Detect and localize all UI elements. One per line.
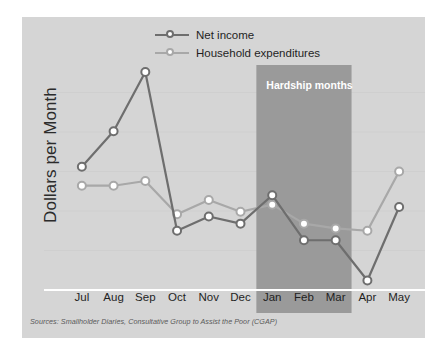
legend-item-net-income[interactable]: Net income xyxy=(155,27,385,43)
x-tick-aug: Aug xyxy=(98,291,130,303)
x-tick-jan: Jan xyxy=(256,291,288,303)
x-tick-oct: Oct xyxy=(161,291,193,303)
hardship-band xyxy=(256,65,351,313)
chart-panel: Hardship months Dollars per Month Net in… xyxy=(22,17,425,338)
x-tick-jul: Jul xyxy=(66,291,98,303)
hardship-band-label: Hardship months xyxy=(266,79,341,91)
x-tick-nov: Nov xyxy=(193,291,225,303)
legend-item-household-expenditures[interactable]: Household expenditures xyxy=(155,45,385,61)
chart-figure: Hardship months Dollars per Month Net in… xyxy=(0,0,446,350)
legend-label-net-income: Net income xyxy=(196,29,254,41)
line-chart-plot xyxy=(22,17,425,338)
legend-marker-household-expenditures xyxy=(155,47,189,59)
legend-marker-net-income xyxy=(155,29,189,41)
chart-legend: Net income Household expenditures xyxy=(155,27,385,63)
legend-label-household-expenditures: Household expenditures xyxy=(196,47,320,59)
x-tick-dec: Dec xyxy=(225,291,257,303)
y-axis-label: Dollars per Month xyxy=(41,70,61,240)
x-axis-tick-labels: JulAugSepOctNovDecJanFebMarAprMay xyxy=(22,291,425,313)
source-note: Sources: Smallholder Diaries, Consultati… xyxy=(30,317,277,326)
series-lines xyxy=(78,68,403,285)
x-tick-feb: Feb xyxy=(288,291,320,303)
x-tick-apr: Apr xyxy=(352,291,384,303)
x-tick-may: May xyxy=(383,291,415,303)
x-tick-sep: Sep xyxy=(129,291,161,303)
x-tick-mar: Mar xyxy=(320,291,352,303)
